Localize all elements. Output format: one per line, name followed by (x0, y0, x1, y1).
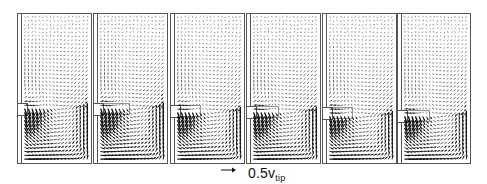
panel-1 (18, 13, 92, 164)
vector-field (177, 16, 241, 160)
panels-group (18, 13, 471, 164)
scale-legend: 0.5vtip (218, 163, 338, 183)
scale-label-main: 0.5v (248, 165, 275, 181)
vector-field (404, 16, 468, 160)
panel-6 (398, 13, 471, 164)
vector-field (24, 16, 88, 160)
right-arrow-icon (218, 163, 244, 179)
panel-5 (323, 13, 397, 164)
velocity-vector-figure (0, 0, 487, 184)
vector-field (100, 16, 165, 160)
panel-4 (247, 13, 321, 164)
vector-field (329, 16, 393, 160)
vector-field (253, 16, 317, 160)
scale-label: 0.5vtip (248, 165, 285, 183)
scale-label-subscript: tip (275, 173, 285, 183)
panel-3 (171, 13, 245, 164)
panel-2 (94, 13, 168, 164)
